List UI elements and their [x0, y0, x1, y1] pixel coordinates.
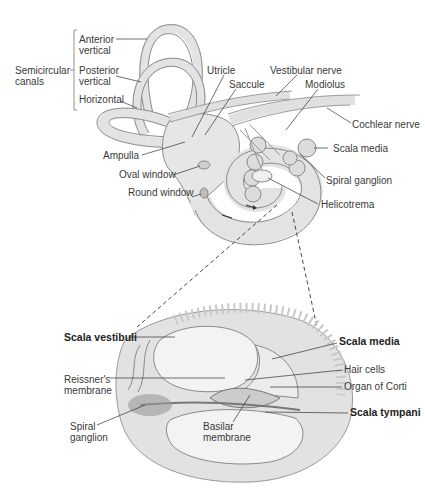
cochlear-cross-section: [116, 308, 353, 482]
scala-vestibuli-label: Scala vestibuli: [64, 332, 137, 343]
vestibular-nerve-label: Vestibular nerve: [270, 65, 342, 76]
oval-window-label: Oval window: [119, 169, 176, 180]
reissners-membrane-label: Reissner's membrane: [64, 374, 112, 396]
round-window: [200, 188, 208, 198]
spiral-ganglion-bottom-label: Spiral ganglion: [70, 421, 108, 443]
helicotrema-label: Helicotrema: [321, 199, 374, 210]
semicircular-canals-label: Semicircular canals: [15, 65, 70, 87]
hair-cells-label: Hair cells: [344, 364, 385, 375]
spiral-ganglion-region: [128, 394, 172, 416]
modiolus-label: Modiolus: [305, 79, 345, 90]
horizontal-label: Horizontal: [79, 94, 124, 105]
cochlear-nerve-label: Cochlear nerve: [352, 119, 420, 130]
anterior-vertical-label: Anterior vertical: [79, 34, 114, 56]
round-window-label: Round window: [128, 187, 194, 198]
organ-of-corti-label: Organ of Corti: [344, 381, 407, 392]
scala-vestibuli: [154, 326, 258, 391]
posterior-vertical-label: Posterior vertical: [79, 65, 119, 87]
scala-media-top-label: Scala media: [333, 143, 388, 154]
saccule-label: Saccule: [229, 79, 265, 90]
basilar-membrane-label: Basilar membrane: [203, 421, 251, 443]
utricle-label: Utricle: [207, 65, 235, 76]
scala-media-bottom-label: Scala media: [339, 336, 400, 347]
oval-window: [198, 161, 210, 169]
scala-tympani-label: Scala tympani: [350, 407, 421, 418]
ampulla-label: Ampulla: [103, 150, 139, 161]
spiral-ganglion-top-label: Spiral ganglion: [326, 175, 392, 186]
